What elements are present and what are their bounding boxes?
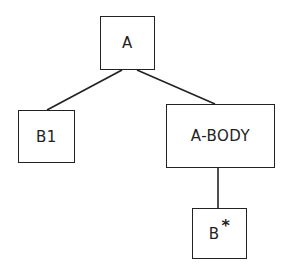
node-a-body: A-BODY [166, 104, 275, 168]
node-b1: B1 [18, 110, 75, 163]
node-a-body-label: A-BODY [191, 127, 251, 145]
tree-diagram: A B1 A-BODY B* [0, 0, 289, 273]
edge-a-to-a-body [137, 70, 215, 104]
node-a-label: A [122, 34, 133, 52]
node-b-star-label: B [209, 225, 220, 243]
node-b-star: B* [192, 208, 247, 259]
node-a: A [100, 16, 155, 70]
asterisk-superscript: * [221, 216, 230, 235]
edge-a-to-b1 [47, 70, 122, 110]
node-b1-label: B1 [36, 128, 57, 146]
